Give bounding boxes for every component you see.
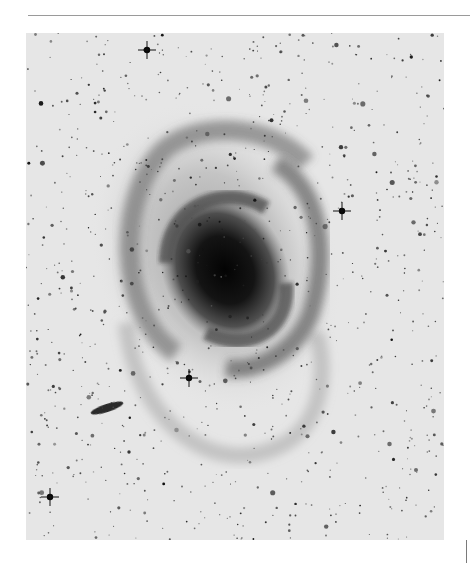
galaxy-plate-image: [26, 33, 444, 540]
cropped-header-text: [0, 0, 470, 3]
header-rule: [28, 15, 470, 16]
galaxy-photograph: [26, 33, 444, 540]
page-edge-mark: [466, 540, 467, 563]
